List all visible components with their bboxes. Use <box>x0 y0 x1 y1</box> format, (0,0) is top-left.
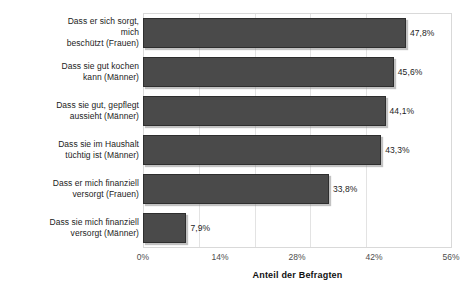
category-label-line: Dass sie im Haushalt <box>0 139 139 150</box>
bar-row: 33,8% <box>143 174 452 204</box>
category-label-line: tüchtig ist (Männer) <box>0 150 139 161</box>
category-label-line: mich <box>0 27 139 38</box>
x-axis-title: Anteil der Befragten <box>143 270 452 280</box>
bar-value-label: 45,6% <box>398 67 423 77</box>
category-label-line: beschützt (Frauen) <box>0 38 139 49</box>
bar-value-label: 33,8% <box>333 184 358 194</box>
bar-value-label: 44,1% <box>390 106 415 116</box>
bar[interactable] <box>143 18 406 48</box>
category-label-line: Dass er sich sorgt, <box>0 16 139 27</box>
bar[interactable] <box>143 213 186 243</box>
category-label: Dass sie gut kochenkann (Männer) <box>0 61 139 83</box>
category-label-line: versorgt (Männer) <box>0 228 139 239</box>
bars-layer: 47,8%45,6%44,1%43,3%33,8%7,9% <box>143 13 452 248</box>
category-label-line: versorgt (Frauen) <box>0 189 139 200</box>
category-label: Dass er sich sorgt,michbeschützt (Frauen… <box>0 16 139 49</box>
bar-row: 45,6% <box>143 57 452 87</box>
bar[interactable] <box>143 57 394 87</box>
category-label: Dass sie im Haushalttüchtig ist (Männer) <box>0 139 139 161</box>
category-label-line: kann (Männer) <box>0 72 139 83</box>
bar[interactable] <box>143 135 381 165</box>
category-axis-labels: Dass er sich sorgt,michbeschützt (Frauen… <box>0 13 139 248</box>
category-label: Dass er mich finanziellversorgt (Frauen) <box>0 178 139 200</box>
bar-row: 47,8% <box>143 18 452 48</box>
x-axis-tick-labels: 0%14%28%42%56% <box>143 252 452 266</box>
x-tick-label: 42% <box>365 252 382 262</box>
x-tick-label: 0% <box>137 252 149 262</box>
bar-row: 43,3% <box>143 135 452 165</box>
category-label: Dass sie mich finanziellversorgt (Männer… <box>0 217 139 239</box>
horizontal-bar-chart: Dass er sich sorgt,michbeschützt (Frauen… <box>0 0 472 292</box>
bar-value-label: 43,3% <box>385 145 410 155</box>
bar-row: 7,9% <box>143 213 452 243</box>
bar[interactable] <box>143 174 329 204</box>
category-label-line: Dass sie gut kochen <box>0 61 139 72</box>
category-label-line: Dass sie gut, gepflegt <box>0 100 139 111</box>
x-tick-label: 56% <box>442 252 459 262</box>
category-label-line: Dass sie mich finanziell <box>0 217 139 228</box>
category-label-line: Dass er mich finanziell <box>0 178 139 189</box>
category-label-line: aussieht (Männer) <box>0 111 139 122</box>
x-tick-label: 14% <box>211 252 228 262</box>
x-tick-label: 28% <box>288 252 305 262</box>
category-label: Dass sie gut, gepflegtaussieht (Männer) <box>0 100 139 122</box>
bar-value-label: 47,8% <box>410 28 435 38</box>
bar-row: 44,1% <box>143 96 452 126</box>
bar[interactable] <box>143 96 386 126</box>
bar-value-label: 7,9% <box>190 223 210 233</box>
